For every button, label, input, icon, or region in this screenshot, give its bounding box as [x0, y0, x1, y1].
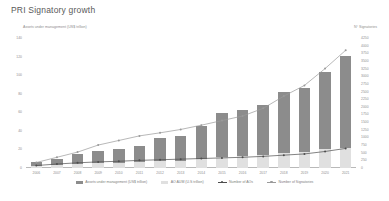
line-marker [159, 132, 161, 134]
legend-label: Number of Signatories [279, 180, 314, 184]
line-marker [262, 155, 264, 157]
line-marker [262, 107, 264, 109]
x-axis-tick-label: 2007 [53, 171, 61, 175]
y-axis-left-tick-label: 60 [18, 110, 22, 114]
y-axis-right-tick-label: 4250 [361, 36, 369, 40]
x-axis-tick-label: 2008 [74, 171, 82, 175]
legend-label: AO AUM (U.S trillion) [171, 180, 204, 184]
y-axis-right-tick-label: 2500 [361, 90, 369, 94]
y-axis-right-tick-label: 1250 [361, 128, 369, 132]
left-axis-title: Assets under management (US$ trillion) [23, 25, 87, 29]
y-axis-right-tick-label: 1750 [361, 112, 369, 116]
line-number-of-signatories [36, 50, 345, 162]
line-marker [138, 159, 140, 161]
line-marker [159, 159, 161, 161]
x-axis-tick-label: 2016 [239, 171, 247, 175]
x-axis-tick-label: 2020 [321, 171, 329, 175]
line-marker [200, 124, 202, 126]
y-axis-left-tick-label: 20 [18, 147, 22, 151]
y-axis-left-tick-label: 80 [18, 92, 22, 96]
line-marker [180, 158, 182, 160]
x-axis-tick-label: 2011 [136, 171, 143, 175]
line-marker [303, 84, 305, 86]
legend-swatch-line-icon [267, 181, 276, 184]
page-title: PRI Signatory growth [11, 5, 95, 15]
x-axis-tick-label: 2015 [218, 171, 226, 175]
x-axis-tick-label: 2017 [259, 171, 267, 175]
y-axis-right-tick-label: 1500 [361, 120, 369, 124]
line-marker [77, 162, 79, 164]
x-axis-tick-label: 2010 [115, 171, 123, 175]
y-axis-right-tick-label: 4000 [361, 44, 369, 48]
legend-swatch-bar-icon [161, 181, 168, 184]
x-axis-tick-label: 2013 [177, 171, 185, 175]
y-axis-right-tick-label: 3250 [361, 67, 369, 71]
y-axis-left-tick-label: 100 [16, 73, 22, 77]
x-axis-tick-label: 2019 [301, 171, 309, 175]
line-marker [221, 157, 223, 159]
line-marker [324, 68, 326, 70]
line-marker [35, 165, 37, 167]
legend-swatch-bar-icon [76, 181, 83, 184]
line-marker [324, 150, 326, 152]
line-number-of-aos [36, 148, 345, 165]
y-axis-right-tick-label: 2750 [361, 82, 369, 86]
line-marker [283, 154, 285, 156]
legend-item[interactable]: AO AUM (U.S trillion) [161, 180, 203, 184]
y-axis-right-tick-label: 2000 [361, 105, 369, 109]
legend-label: Number of AOs [229, 180, 253, 184]
line-marker [345, 49, 347, 51]
line-marker [242, 115, 244, 117]
y-axis-right-tick-label: 2250 [361, 97, 369, 101]
x-axis-tick-label: 2018 [280, 171, 288, 175]
y-axis-right-tick-label: 500 [361, 151, 367, 155]
chart-legend: Assets under management (US$ trillion)AO… [0, 180, 389, 184]
line-series [26, 38, 356, 168]
line-marker [97, 161, 99, 163]
line-marker [56, 156, 58, 158]
legend-swatch-line-icon [218, 181, 227, 184]
right-axis-title: N° Signatories [354, 25, 377, 29]
x-axis-tick-label: 2009 [94, 171, 102, 175]
y-axis-right-tick-label: 0 [361, 166, 363, 170]
line-marker [35, 161, 37, 163]
y-axis-right-tick-label: 3750 [361, 51, 369, 55]
y-axis-right-tick-label: 1000 [361, 135, 369, 139]
chart-card: PRI Signatory growth Assets under manage… [0, 0, 389, 201]
line-marker [97, 144, 99, 146]
line-marker [118, 139, 120, 141]
legend-item[interactable]: Number of Signatories [267, 180, 313, 184]
x-axis-tick-label: 2014 [198, 171, 206, 175]
y-axis-right-tick-label: 250 [361, 158, 367, 162]
y-axis-left-tick-label: 140 [16, 36, 22, 40]
line-marker [242, 156, 244, 158]
line-marker [283, 95, 285, 97]
y-axis-left-tick-label: 120 [16, 55, 22, 59]
line-marker [221, 120, 223, 122]
line-marker [303, 153, 305, 155]
x-axis-tick-label: 2006 [33, 171, 41, 175]
legend-label: Assets under management (US$ trillion) [85, 180, 147, 184]
line-marker [56, 163, 58, 165]
line-marker [118, 160, 120, 162]
line-marker [200, 158, 202, 160]
legend-item[interactable]: Assets under management (US$ trillion) [76, 180, 148, 184]
y-axis-right-tick-label: 750 [361, 143, 367, 147]
y-axis-right-tick-label: 3000 [361, 74, 369, 78]
line-marker [180, 128, 182, 130]
y-axis-right-tick-label: 3500 [361, 59, 369, 63]
plot-frame: 020406080100120140 025050075010001250150… [26, 38, 356, 168]
line-marker [77, 151, 79, 153]
x-axis-tick-label: 2021 [342, 171, 350, 175]
legend-item[interactable]: Number of AOs [218, 180, 253, 184]
y-axis-left-tick-label: 0 [20, 166, 22, 170]
line-marker [345, 147, 347, 149]
x-axis-tick-label: 2012 [156, 171, 164, 175]
y-axis-left-tick-label: 40 [18, 129, 22, 133]
plot-area: 020406080100120140 025050075010001250150… [26, 38, 356, 168]
line-marker [138, 135, 140, 137]
